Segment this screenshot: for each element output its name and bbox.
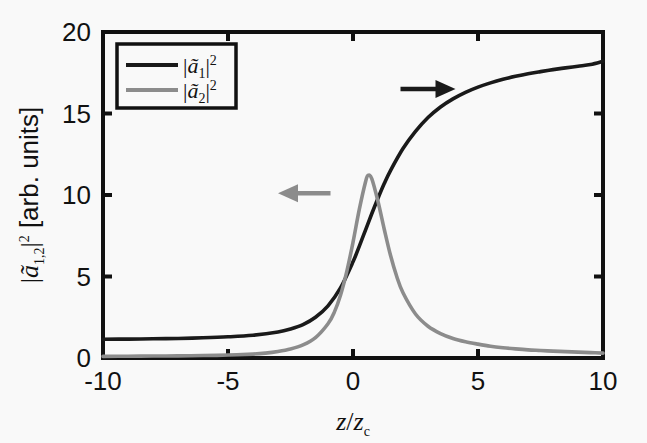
y-tick-label: 10: [62, 180, 91, 210]
y-tick-label: 5: [77, 262, 91, 292]
y-tick-label: 20: [62, 17, 91, 47]
x-tick-label: 5: [471, 366, 485, 396]
x-tick-label: 0: [346, 366, 360, 396]
y-tick-label: 15: [62, 99, 91, 129]
legend: |ã1|2 |ã2|2: [117, 44, 236, 108]
legend-box: [117, 44, 236, 108]
y-tick-label: 0: [77, 343, 91, 373]
x-tick-label: 10: [589, 366, 618, 396]
x-tick-label: -5: [216, 366, 239, 396]
chart-plot: -10-5051005101520 |ã1|2 |ã2|2 |ã1,2|2 [a…: [0, 0, 647, 443]
figure-container: -10-5051005101520 |ã1|2 |ã2|2 |ã1,2|2 [a…: [0, 0, 647, 443]
